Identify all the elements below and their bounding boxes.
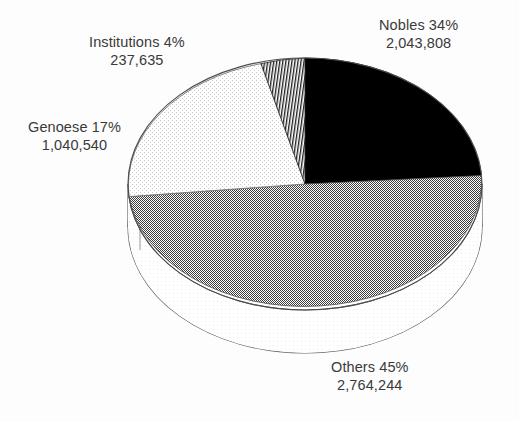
slice-label-others: Others 45% 2,764,244	[331, 358, 409, 394]
slice-label-institutions-line2: 237,635	[89, 51, 185, 69]
slice-label-nobles: Nobles 34% 2,043,808	[379, 16, 458, 52]
slice-label-genoese-line2: 1,040,540	[28, 136, 121, 154]
slice-label-institutions: Institutions 4% 237,635	[89, 33, 185, 69]
slice-label-nobles-line1: Nobles 34%	[379, 16, 458, 34]
slice-label-genoese: Genoese 17% 1,040,540	[28, 118, 121, 154]
pie-chart-figure: Nobles 34% 2,043,808 Institutions 4% 237…	[0, 0, 519, 422]
slice-label-institutions-line1: Institutions 4%	[89, 33, 185, 51]
slice-label-nobles-line2: 2,043,808	[379, 34, 458, 52]
slice-label-others-line1: Others 45%	[331, 358, 409, 376]
pie-slice-nobles	[305, 58, 481, 184]
slice-label-others-line2: 2,764,244	[331, 376, 409, 394]
slice-label-genoese-line1: Genoese 17%	[28, 118, 121, 136]
pie-chart-svg	[0, 0, 519, 422]
